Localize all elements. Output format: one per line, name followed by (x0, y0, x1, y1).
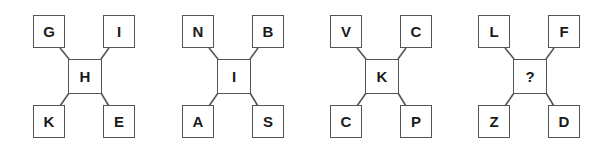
letter-figure-4: L F ? Z D (478, 0, 588, 145)
top-right-box: B (252, 15, 284, 48)
letter-figure-1: G I H K E (33, 0, 143, 145)
top-left-box: N (182, 15, 214, 48)
letter-figure-2: N B I A S (182, 0, 292, 145)
center-box: K (365, 59, 399, 94)
bottom-right-box: D (548, 105, 580, 138)
bottom-right-box: E (103, 105, 135, 138)
top-right-box: I (103, 15, 135, 48)
connector-top-right (546, 48, 554, 59)
connector-top-left (357, 48, 366, 59)
connector-top-right (398, 48, 406, 59)
top-right-box: C (400, 15, 432, 48)
bottom-left-box: K (33, 105, 65, 138)
center-box: I (217, 59, 251, 94)
connector-top-left (209, 48, 218, 59)
connector-top-right (101, 48, 109, 59)
top-left-box: G (33, 15, 65, 48)
top-left-box: V (330, 15, 362, 48)
bottom-left-box: C (330, 105, 362, 138)
bottom-left-box: A (182, 105, 214, 138)
connector-top-right (250, 48, 258, 59)
connector-top-left (505, 48, 514, 59)
letter-figure-3: V C K C P (330, 0, 440, 145)
bottom-left-box: Z (478, 105, 510, 138)
center-box: H (68, 59, 102, 94)
top-right-box: F (548, 15, 580, 48)
missing-letter-box: ? (513, 59, 547, 94)
bottom-right-box: S (252, 105, 284, 138)
bottom-right-box: P (400, 105, 432, 138)
connector-top-left (60, 48, 69, 59)
top-left-box: L (478, 15, 510, 48)
